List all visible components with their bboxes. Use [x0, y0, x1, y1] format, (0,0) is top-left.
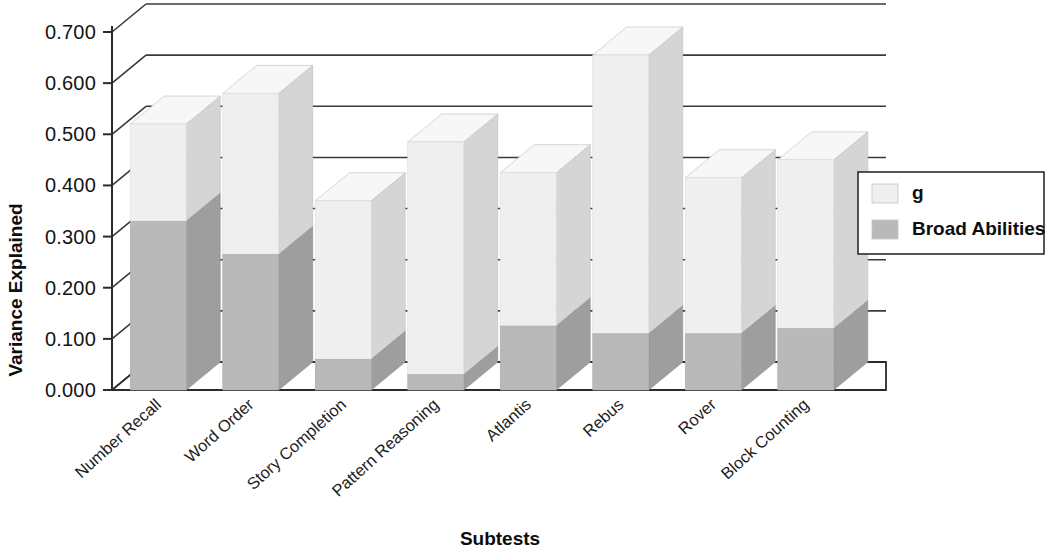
y-tick-label-2: 0.200 [45, 277, 96, 299]
bar-5-broad-front [593, 334, 649, 390]
bar-group-1 [223, 65, 313, 390]
bar-4-g-front [500, 173, 556, 326]
y-axis-title-text: Variance Explained [5, 203, 26, 376]
variance-explained-stacked-bar-chart: Variance Explained 0.0000.1000.2000.3000… [0, 0, 1049, 560]
bar-6-g-front [685, 178, 741, 334]
y-tick-label-6: 0.600 [45, 72, 96, 94]
x-category-label-7: Block Counting [717, 395, 812, 483]
x-category-label-4: Atlantis [482, 395, 534, 445]
bar-group-3 [408, 114, 498, 390]
x-axis-category-labels: Number RecallWord OrderStory CompletionP… [71, 395, 812, 500]
x-category-label-2: Story Completion [243, 395, 349, 493]
bar-3-g-side [464, 114, 498, 375]
bar-0-g-front [130, 124, 186, 221]
y-tick-label-7: 0.700 [45, 21, 96, 43]
bar-1-g-front [223, 93, 279, 254]
bar-group-7 [778, 132, 868, 390]
bar-2-g-side [371, 173, 405, 360]
bar-group-6 [685, 150, 775, 390]
bar-4-g-side [556, 145, 590, 326]
y-axis-title: Variance Explained [5, 203, 26, 376]
bar-1-broad-front [223, 254, 279, 390]
bar-4-broad-front [500, 326, 556, 390]
gridline-depth-7 [112, 4, 146, 32]
bar-0-broad-side [186, 193, 220, 390]
bar-group-4 [500, 145, 590, 390]
y-tick-label-1: 0.100 [45, 328, 96, 350]
y-tick-label-4: 0.400 [45, 174, 96, 196]
x-category-label-0: Number Recall [71, 395, 164, 481]
bar-3-broad-front [408, 375, 464, 390]
bar-1-broad-side [279, 226, 313, 390]
legend-label-1: Broad Abilities [912, 218, 1045, 239]
legend-swatch-0 [872, 184, 898, 203]
y-tick-label-0: 0.000 [45, 379, 96, 401]
legend-swatch-1 [872, 220, 898, 239]
legend: gBroad Abilities [858, 172, 1045, 254]
y-tick-label-5: 0.500 [45, 123, 96, 145]
bar-5-g-side [649, 27, 683, 334]
bar-group-0 [130, 96, 220, 390]
bar-7-g-front [778, 160, 834, 329]
y-tick-label-3: 0.300 [45, 226, 96, 248]
gridline-depth-6 [112, 55, 146, 83]
x-axis-title: Subtests [460, 528, 540, 549]
y-axis-tick-labels: 0.0000.1000.2000.3000.4000.5000.6000.700 [45, 21, 112, 401]
x-category-label-1: Word Order [181, 395, 257, 466]
bar-1-g-side [279, 65, 313, 254]
bar-7-broad-front [778, 329, 834, 390]
bar-6-g-side [741, 150, 775, 334]
x-category-label-6: Rover [675, 395, 720, 438]
bar-2-broad-front [315, 359, 371, 390]
bar-group-2 [315, 173, 405, 390]
bar-6-broad-front [685, 334, 741, 390]
chart-container: Variance Explained 0.0000.1000.2000.3000… [0, 0, 1049, 560]
bar-group-5 [593, 27, 683, 390]
bar-0-broad-front [130, 221, 186, 390]
bar-2-g-front [315, 201, 371, 360]
legend-label-0: g [912, 182, 924, 203]
x-category-label-5: Rebus [579, 395, 626, 440]
bar-3-g-front [408, 142, 464, 375]
bar-5-g-front [593, 55, 649, 334]
